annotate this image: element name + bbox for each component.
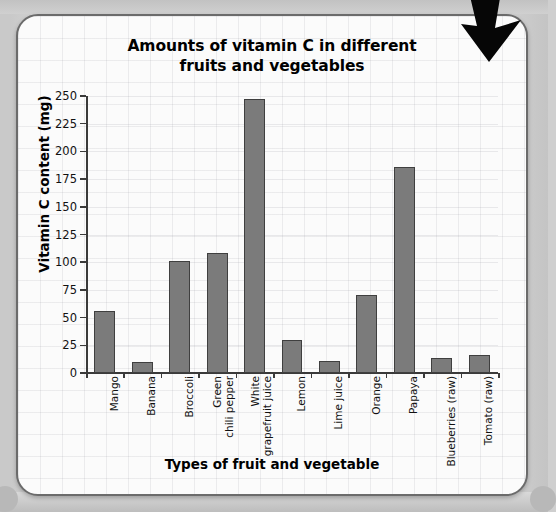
x-axis-category-label: Orange [371,376,383,415]
x-axis-label-line: Lemon [296,376,308,411]
chart-title-line-2: fruits and vegetables [180,57,365,75]
x-axis-category-label: Mango [109,376,121,411]
x-axis-category-label: Whitegrapefruit juice [250,376,274,456]
y-axis-title: Vitamin C content (mg) [36,74,52,294]
bar [94,311,115,373]
x-axis-label-line: grapefruit juice [261,376,273,456]
x-axis-label-line: Banana [146,376,158,416]
bar [282,340,303,373]
x-axis-category-label: Lime juice [333,376,345,430]
x-axis-label-line: Lime juice [333,376,345,430]
bar [356,295,377,373]
plot-area: 0255075100125150175200225250 [86,96,498,373]
y-axis-tick-label: 175 [55,172,77,186]
y-axis-tick-label: 0 [70,366,77,380]
chart-title-line-1: Amounts of vitamin C in different [127,37,416,55]
bar [319,361,340,373]
y-axis-tick-label: 250 [55,89,77,103]
y-axis-tick-label: 50 [62,311,77,325]
y-axis-tick-label: 75 [62,283,77,297]
arrow-down-right-icon [455,0,533,66]
bar [431,358,452,374]
x-axis-label-line: Mango [109,376,121,411]
x-axis-category-label: Lemon [296,376,308,411]
x-axis-label-line: Papaya [408,376,420,414]
y-axis-tick-label: 225 [55,117,77,131]
y-axis-tick-label: 150 [55,200,77,214]
x-axis-category-label: Papaya [408,376,420,414]
x-axis-label-line: Tomato (raw) [483,376,495,445]
y-axis-tick-label: 25 [62,338,77,352]
x-axis-category-label: Tomato (raw) [483,376,495,445]
x-axis-label-line: chili pepper [224,376,236,438]
background-corner-right [530,486,556,512]
x-axis-label-line: Orange [371,376,383,415]
bar [394,167,415,373]
y-axis-tick-label: 200 [55,144,77,158]
chart-title: Amounts of vitamin C in different fruits… [62,36,482,77]
x-axis-category-label: Blueberries (raw) [446,376,458,467]
x-axis-tick [498,373,500,378]
x-axis-title: Types of fruit and vegetable [62,456,482,472]
x-axis-category-label: Banana [146,376,158,416]
bar-series [86,96,498,373]
x-axis-label-line: Broccoli [184,376,196,418]
bar [132,362,153,373]
y-axis-tick-label: 125 [55,228,77,242]
y-axis-tick-label: 100 [55,255,77,269]
bar [207,253,228,373]
x-axis-label-line: White [250,376,262,456]
x-axis-category-labels: MangoBananaBroccoliGreenchili pepperWhit… [86,376,498,456]
x-axis-category-label: Greenchili pepper [212,376,236,438]
x-axis-category-label: Broccoli [184,376,196,418]
bar [469,355,490,373]
chart-card: Amounts of vitamin C in different fruits… [16,14,528,496]
bar [244,99,265,373]
bar [169,261,190,373]
x-axis-label-line: Blueberries (raw) [446,376,458,467]
